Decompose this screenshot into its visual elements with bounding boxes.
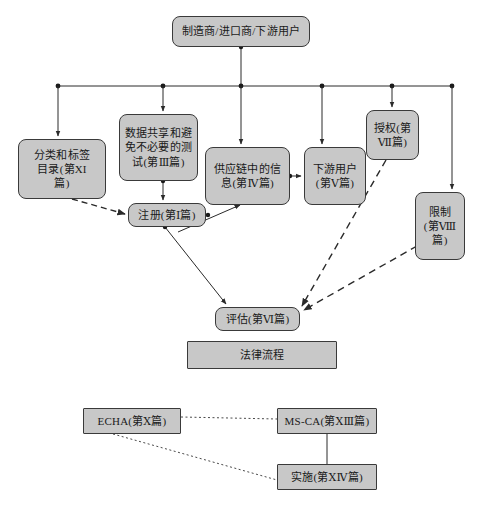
junction-dot-4 bbox=[320, 84, 325, 89]
node-legal-process-label: 法律流程 bbox=[237, 348, 288, 362]
node-implementation-label: 实施(第ⅩⅣ篇) bbox=[288, 470, 366, 484]
node-authorisation-label: 授权(第 Ⅶ篇) bbox=[371, 121, 414, 149]
node-legal-process[interactable]: 法律流程 bbox=[187, 341, 337, 369]
junction-dot-3 bbox=[239, 84, 244, 89]
node-supply-chain-information[interactable]: 供应链中的信 息(第Ⅳ篇) bbox=[205, 147, 290, 205]
edge-registration-evaluation bbox=[165, 227, 226, 304]
edge-restriction-evaluation bbox=[304, 246, 417, 310]
junction-dot-supply-chain-left bbox=[206, 213, 210, 217]
node-data-sharing-label: 数据共享和避 免不必要的测 试(第Ⅲ篇) bbox=[122, 126, 195, 168]
node-ms-ca-label: MS-CA(第ⅩⅢ篇) bbox=[282, 414, 373, 428]
junction-dot-1 bbox=[56, 84, 61, 89]
node-manufacturer[interactable]: 制造商/进口商/下游用户 bbox=[172, 16, 310, 47]
node-data-sharing[interactable]: 数据共享和避 免不必要的测 试(第Ⅲ篇) bbox=[119, 114, 198, 181]
flowchart-canvas: 制造商/进口商/下游用户 分类和标签 目录(第XI 篇) 数据共享和避 免不必要… bbox=[0, 0, 479, 518]
node-classification-labelling-inventory[interactable]: 分类和标签 目录(第XI 篇) bbox=[18, 139, 106, 199]
junction-dot-6 bbox=[450, 84, 455, 89]
connector-layer bbox=[0, 0, 479, 518]
node-downstream-label: 下游用户 (第Ⅴ篇) bbox=[310, 162, 361, 190]
edge-echa-implementation bbox=[113, 434, 277, 480]
node-evaluation-label: 评估(第Ⅵ篇) bbox=[223, 312, 293, 326]
node-evaluation[interactable]: 评估(第Ⅵ篇) bbox=[215, 307, 300, 331]
node-classification-label: 分类和标签 目录(第XI 篇) bbox=[31, 148, 93, 190]
junction-dot-2 bbox=[161, 84, 166, 89]
node-implementation[interactable]: 实施(第ⅩⅣ篇) bbox=[277, 464, 377, 490]
node-downstream-users[interactable]: 下游用户 (第Ⅴ篇) bbox=[304, 147, 366, 205]
edge-classification-registration bbox=[72, 199, 125, 214]
junction-dot-5 bbox=[390, 84, 395, 89]
node-registration-label: 注册(第Ⅰ篇) bbox=[135, 208, 198, 222]
node-supply-chain-label: 供应链中的信 息(第Ⅳ篇) bbox=[211, 162, 284, 190]
node-restriction[interactable]: 限制 (第Ⅷ 篇) bbox=[415, 192, 465, 260]
node-ms-ca[interactable]: MS-CA(第ⅩⅢ篇) bbox=[277, 408, 377, 434]
node-registration[interactable]: 注册(第Ⅰ篇) bbox=[128, 203, 206, 227]
node-echa[interactable]: ECHA(第Ⅹ篇) bbox=[83, 408, 181, 434]
edge-echa-msca bbox=[181, 417, 277, 419]
node-manufacturer-label: 制造商/进口商/下游用户 bbox=[179, 24, 304, 38]
node-echa-label: ECHA(第Ⅹ篇) bbox=[95, 414, 170, 428]
node-restriction-label: 限制 (第Ⅷ 篇) bbox=[421, 205, 460, 247]
node-authorisation[interactable]: 授权(第 Ⅶ篇) bbox=[366, 110, 419, 160]
